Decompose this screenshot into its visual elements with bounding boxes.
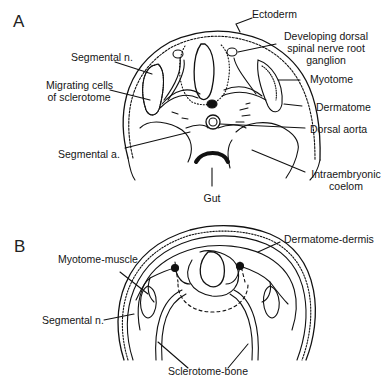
label-sclerotome-bone: Sclerotome-bone	[168, 365, 248, 377]
label-myotome-muscle: Myotome-muscle	[58, 253, 138, 265]
label-developing-drg-line1: Developing dorsal	[277, 30, 375, 42]
label-developing-drg-line3: ganglion	[277, 54, 375, 66]
label-segmental-n-b: Segmental n.	[42, 314, 104, 326]
label-intraembryonic-coelom: Intraembryonic coelom	[308, 168, 384, 192]
label-dorsal-aorta: Dorsal aorta	[310, 123, 367, 135]
label-myotome: Myotome	[310, 73, 353, 85]
label-coelom-line2: coelom	[308, 180, 384, 192]
label-coelom-line1: Intraembryonic	[308, 168, 384, 180]
panel-a-label: A	[13, 12, 24, 32]
label-migrating-line2: of sclerotome	[46, 91, 112, 103]
label-developing-drg-line2: spinal nerve root	[277, 42, 375, 54]
label-dermatome-dermis: Dermatome-dermis	[284, 233, 374, 245]
panel-b-label: B	[14, 237, 25, 257]
label-gut: Gut	[192, 192, 232, 204]
label-dermatome: Dermatome	[316, 101, 371, 113]
label-segmental-a: Segmental a.	[58, 148, 120, 160]
label-segmental-n-a: Segmental n.	[71, 51, 133, 63]
label-migrating-line1: Migrating cells	[46, 79, 112, 91]
panel-b-drawing	[104, 226, 315, 368]
label-migrating-sclerotome: Migrating cells of sclerotome	[46, 79, 112, 103]
embryo-cross-section-figure: A B Ectoderm Developing dorsal spinal ne…	[0, 0, 387, 388]
label-developing-drg: Developing dorsal spinal nerve root gang…	[277, 30, 375, 66]
label-ectoderm: Ectoderm	[252, 8, 297, 20]
